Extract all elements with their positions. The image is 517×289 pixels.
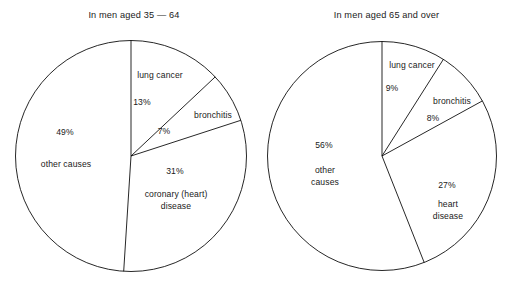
right-pct-other-causes: 56%: [304, 140, 344, 150]
right-label-lung-cancer: lung cancer: [372, 60, 452, 72]
right-pct-bronchitis: 8%: [417, 113, 449, 123]
pie-chart-panel-left: In men aged 35 — 64 lung cancer 13% bron…: [0, 0, 262, 289]
left-label-other-causes: other causes: [26, 159, 106, 171]
right-label-bronchitis: bronchitis: [419, 96, 485, 108]
left-pct-heart-disease: 31%: [155, 166, 195, 176]
right-pct-lung-cancer: 9%: [376, 83, 408, 93]
left-pct-other-causes: 49%: [45, 127, 85, 137]
left-pie-graphic: [0, 0, 262, 289]
left-label-lung-cancer: lung cancer: [120, 70, 200, 82]
pie-chart-panel-right: In men aged 65 and over lung cancer 9% b…: [262, 0, 517, 289]
left-label-bronchitis: bronchitis: [180, 110, 246, 122]
right-label-heart-disease: heart disease: [422, 199, 474, 222]
left-pct-bronchitis: 7%: [147, 126, 181, 136]
pie-chart-figure: In men aged 35 — 64 lung cancer 13% bron…: [0, 0, 517, 289]
left-pct-lung-cancer: 13%: [120, 97, 164, 107]
right-label-other-causes: other causes: [300, 165, 350, 188]
left-label-heart-disease: coronary (heart) disease: [128, 189, 224, 212]
right-pie-graphic: [262, 0, 517, 289]
right-pct-heart-disease: 27%: [427, 180, 467, 190]
